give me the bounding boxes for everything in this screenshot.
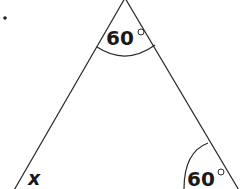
bullet-dot	[3, 16, 7, 20]
triangle-diagram: 60 60 x	[0, 0, 247, 189]
bottom-right-angle-value: 60	[187, 167, 215, 189]
apex-angle-value: 60	[106, 26, 134, 50]
apex-degree-symbol	[138, 29, 144, 35]
unknown-angle-x: x	[27, 167, 41, 189]
bottom-right-degree-symbol	[218, 169, 224, 175]
right-side	[125, 0, 240, 189]
